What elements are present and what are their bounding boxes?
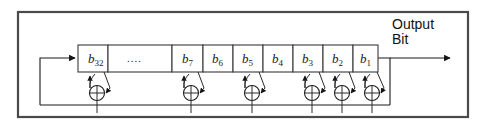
tap-group-b2 <box>335 72 356 113</box>
lfsr-diagram-svg: b32 .... b7 b6 b5 b4 b3 b2 b1 <box>0 0 487 127</box>
tap-group-b32 <box>90 72 111 113</box>
xor-b32-from-cell-arrow <box>104 72 110 93</box>
tap-group-b5 <box>245 72 266 113</box>
output-tap-to-bus <box>378 58 390 105</box>
tap-group-b7 <box>184 72 205 113</box>
tap-group-b1 <box>365 72 385 113</box>
feedback-loop-left-path <box>40 58 70 105</box>
output-bit-label-line2: Bit <box>392 31 408 47</box>
output-bit-label-line1: Output <box>392 16 434 32</box>
xor-b3-from-cell-arrow <box>319 72 325 93</box>
xor-b7-from-cell-arrow <box>198 72 204 93</box>
lfsr-diagram-canvas: b32 .... b7 b6 b5 b4 b3 b2 b1 <box>0 0 487 127</box>
xor-b2-from-cell-arrow <box>349 72 355 93</box>
xor-b5-from-cell-arrow <box>259 72 265 93</box>
cell-label-ellipsis: .... <box>127 52 142 64</box>
tap-group-b3 <box>305 72 326 113</box>
